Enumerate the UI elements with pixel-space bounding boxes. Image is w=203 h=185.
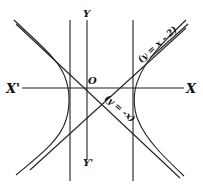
x-axis-pos-label: X — [185, 81, 197, 96]
x-axis-neg-label: X' — [5, 81, 20, 96]
asymptote-2-label: (y = -x) — [103, 93, 138, 124]
hyperbola-left-branch — [14, 20, 69, 175]
origin-label: O — [88, 75, 97, 86]
diagram: X' X Y Y' O (y = x - 2) (y = -x) — [0, 0, 203, 185]
y-axis-pos-label: Y — [83, 8, 91, 19]
y-axis-neg-label: Y' — [83, 157, 93, 168]
asymptote-1-label: (y = x - 2) — [136, 24, 179, 64]
hyperbola-diagram: X' X Y Y' O (y = x - 2) (y = -x) — [0, 0, 203, 185]
